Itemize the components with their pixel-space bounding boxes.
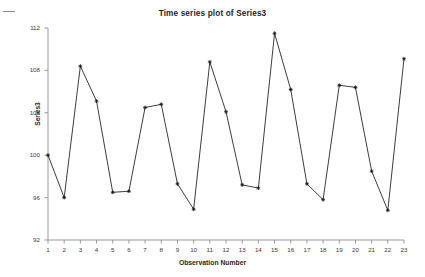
x-axis-tick-label: 17 bbox=[299, 246, 315, 253]
y-axis-tick-label: 108 bbox=[18, 66, 40, 73]
data-point-marker bbox=[78, 64, 82, 68]
data-point-marker bbox=[159, 102, 163, 106]
x-axis-tick-label: 2 bbox=[56, 246, 72, 253]
data-point-marker bbox=[62, 196, 66, 200]
chart-figure: Time series plot of Series3 Series3 Obse… bbox=[0, 0, 425, 277]
x-axis-tick-label: 9 bbox=[169, 246, 185, 253]
data-point-marker bbox=[192, 207, 196, 211]
y-axis-tick-label: 96 bbox=[18, 194, 40, 201]
data-point-marker bbox=[208, 60, 212, 64]
data-point-marker bbox=[240, 183, 244, 187]
x-axis-tick-label: 19 bbox=[331, 246, 347, 253]
x-axis-tick-label: 13 bbox=[234, 246, 250, 253]
x-axis-tick-label: 23 bbox=[396, 246, 412, 253]
data-point-marker bbox=[143, 106, 147, 110]
x-axis-tick-label: 12 bbox=[218, 246, 234, 253]
data-point-marker bbox=[402, 57, 406, 61]
x-axis-tick-label: 18 bbox=[315, 246, 331, 253]
plot-area bbox=[0, 0, 425, 277]
x-axis-tick-label: 21 bbox=[364, 246, 380, 253]
data-point-marker bbox=[354, 85, 358, 89]
data-point-marker bbox=[321, 198, 325, 202]
data-point-marker bbox=[111, 190, 115, 194]
y-axis-tick-label: 104 bbox=[18, 109, 40, 116]
series-line bbox=[48, 33, 404, 210]
data-point-marker bbox=[273, 31, 277, 35]
x-axis-tick-label: 22 bbox=[380, 246, 396, 253]
x-axis-tick-label: 10 bbox=[186, 246, 202, 253]
data-point-marker bbox=[176, 182, 180, 186]
data-point-marker bbox=[224, 110, 228, 114]
x-axis-tick-label: 5 bbox=[105, 246, 121, 253]
x-axis-tick-label: 7 bbox=[137, 246, 153, 253]
x-axis-tick-label: 1 bbox=[40, 246, 56, 253]
data-point-marker bbox=[337, 83, 341, 87]
y-axis-tick-label: 100 bbox=[18, 151, 40, 158]
y-axis-tick-label: 112 bbox=[18, 24, 40, 31]
data-point-marker bbox=[46, 153, 50, 157]
data-point-marker bbox=[370, 169, 374, 173]
data-point-marker bbox=[127, 189, 131, 193]
x-axis-tick-label: 3 bbox=[72, 246, 88, 253]
x-axis-tick-label: 8 bbox=[153, 246, 169, 253]
x-axis-tick-label: 11 bbox=[202, 246, 218, 253]
x-axis-tick-label: 14 bbox=[250, 246, 266, 253]
x-axis-tick-label: 4 bbox=[89, 246, 105, 253]
x-axis-tick-label: 16 bbox=[283, 246, 299, 253]
x-axis-tick-label: 15 bbox=[267, 246, 283, 253]
y-axis-tick-label: 92 bbox=[18, 236, 40, 243]
x-axis-tick-label: 6 bbox=[121, 246, 137, 253]
data-point-marker bbox=[386, 208, 390, 212]
data-point-marker bbox=[256, 186, 260, 190]
x-axis-tick-label: 20 bbox=[347, 246, 363, 253]
data-point-marker bbox=[95, 99, 99, 103]
data-point-marker bbox=[305, 182, 309, 186]
data-point-marker bbox=[289, 88, 293, 92]
